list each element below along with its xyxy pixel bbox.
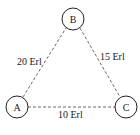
traffic-triangle-diagram: 20 Erl 15 Erl 10 Erl B A C (0, 0, 140, 135)
node-b-label: B (70, 14, 77, 25)
edge-label-b-c: 15 Erl (100, 51, 125, 62)
node-c-label: C (123, 102, 130, 113)
node-a-label: A (13, 102, 21, 113)
node-a: A (6, 96, 28, 118)
edge-b-c (80, 28, 120, 97)
edge-label-a-c: 10 Erl (58, 109, 83, 120)
node-b: B (62, 8, 84, 30)
edge-label-a-b: 20 Erl (17, 56, 42, 67)
node-c: C (115, 96, 137, 118)
